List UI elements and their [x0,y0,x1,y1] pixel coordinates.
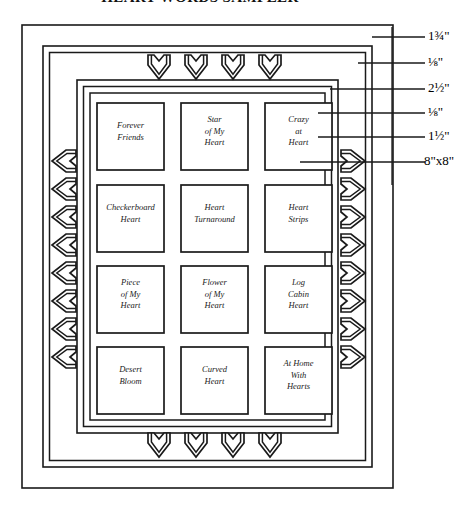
block-rect [97,103,164,170]
quilt-layout-diagram [0,0,475,506]
dimension-label-heart-band: 2½" [428,80,450,96]
block-rect [265,266,332,333]
block-rect [181,103,248,170]
block-rect [97,347,164,414]
block-rect [265,347,332,414]
block-rect [97,185,164,252]
block-rect [181,347,248,414]
block-rect [97,266,164,333]
dimension-label-narrow-1: ⅛" [428,54,443,70]
block-rect [265,185,332,252]
dimension-label-outer-border: 1¾" [428,28,450,44]
block-rect [181,185,248,252]
dimension-label-block-size: 8"x8" [424,153,454,169]
block-rect [181,266,248,333]
dimension-label-sashing: 1½" [428,128,450,144]
dimension-label-narrow-2: ⅛" [428,104,443,120]
